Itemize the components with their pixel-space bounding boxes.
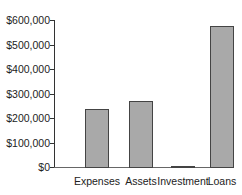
bar-loans [210,26,234,168]
y-tick-label: $600,000 [6,14,50,26]
y-tick-mark [50,94,54,95]
y-tick-mark [50,69,54,70]
y-tick-label: $300,000 [6,88,50,100]
y-tick-label: $0 [38,161,50,173]
y-tick-label: $100,000 [6,137,50,149]
y-tick-mark [50,118,54,119]
y-axis [54,20,55,168]
y-tick-mark [50,20,54,21]
y-tick-mark [50,143,54,144]
bar-investment [171,166,195,168]
y-tick-label: $400,000 [6,63,50,75]
x-tick-label: Loans [192,175,242,187]
bar-chart: $0$100,000$200,000$300,000$400,000$500,0… [0,0,242,195]
y-tick-mark [50,45,54,46]
bar-assets [129,101,153,168]
y-tick-label: $200,000 [6,112,50,124]
y-tick-label: $500,000 [6,39,50,51]
y-tick-mark [50,167,54,168]
bar-expenses [85,109,109,168]
